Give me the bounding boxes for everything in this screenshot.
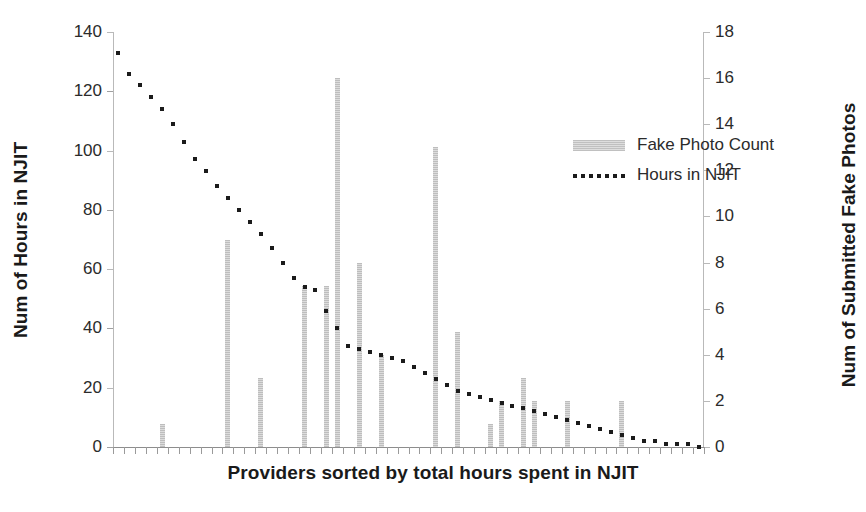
x-tick [266, 447, 267, 454]
y-tick-label-right: 18 [715, 23, 734, 40]
data-point [390, 356, 394, 360]
x-tick [441, 447, 442, 454]
x-tick [365, 447, 366, 454]
y-tick-label-left: 120 [74, 82, 102, 99]
data-point [259, 232, 263, 236]
x-tick [463, 447, 464, 454]
bar [225, 240, 230, 448]
data-point [587, 424, 591, 428]
data-point [149, 95, 153, 99]
data-point [664, 442, 668, 446]
data-point [565, 418, 569, 422]
data-point [313, 288, 317, 292]
x-tick [693, 447, 694, 454]
y-tick-label-right: 8 [715, 254, 724, 271]
y-tick-right [704, 355, 710, 356]
dotted-line-swatch-icon [573, 170, 625, 181]
x-tick [671, 447, 672, 454]
y-tick-left [107, 32, 113, 33]
data-point [401, 359, 405, 363]
data-point [270, 246, 274, 250]
bar [160, 424, 165, 447]
data-point [434, 377, 438, 381]
x-tick [584, 447, 585, 454]
x-tick [518, 447, 519, 454]
data-point [642, 439, 646, 443]
data-point [576, 421, 580, 425]
x-tick [551, 447, 552, 454]
data-point [631, 436, 635, 440]
data-point [543, 412, 547, 416]
y-tick-label-left: 100 [74, 142, 102, 159]
x-tick [409, 447, 410, 454]
data-point [500, 401, 504, 405]
x-tick [660, 447, 661, 454]
x-tick [244, 447, 245, 454]
x-tick [255, 447, 256, 454]
y-tick-right [704, 124, 710, 125]
data-point [653, 439, 657, 443]
y-tick-right [704, 32, 710, 33]
y-axis-left-title: Num of Hours in NJIT [8, 90, 34, 390]
y-tick-left [107, 388, 113, 389]
data-point [204, 169, 208, 173]
y-tick-left [107, 328, 113, 329]
y-tick-label-left: 40 [83, 319, 102, 336]
x-tick [376, 447, 377, 454]
data-point [127, 72, 131, 76]
x-tick [638, 447, 639, 454]
chart-canvas: Num of Hours in NJIT Num of Submitted Fa… [0, 0, 866, 512]
x-tick [157, 447, 158, 454]
legend-item-fake-photo-count: Fake Photo Count [573, 130, 774, 160]
y-tick-right [704, 216, 710, 217]
x-tick [222, 447, 223, 454]
bar [335, 78, 340, 447]
x-tick [179, 447, 180, 454]
data-point [116, 51, 120, 55]
data-point [193, 157, 197, 161]
x-tick [212, 447, 213, 454]
bar [521, 378, 526, 447]
x-tick [321, 447, 322, 454]
data-point [445, 383, 449, 387]
data-point [171, 122, 175, 126]
y-tick-label-left: 0 [93, 438, 102, 455]
y-tick-label-left: 60 [83, 260, 102, 277]
x-tick [595, 447, 596, 454]
x-tick [616, 447, 617, 454]
data-point [379, 353, 383, 357]
data-point [292, 276, 296, 280]
x-tick [529, 447, 530, 454]
bar [488, 424, 493, 447]
y-tick-label-left: 140 [74, 23, 102, 40]
x-tick [430, 447, 431, 454]
x-tick [704, 447, 705, 454]
data-point [357, 347, 361, 351]
data-point [346, 344, 350, 348]
y-tick-left [107, 91, 113, 92]
data-point [675, 442, 679, 446]
data-point [138, 83, 142, 87]
data-point [521, 406, 525, 410]
x-tick [485, 447, 486, 454]
x-tick [135, 447, 136, 454]
x-tick [474, 447, 475, 454]
bar [302, 286, 307, 447]
y-tick-right [704, 309, 710, 310]
x-tick [354, 447, 355, 454]
x-tick [332, 447, 333, 454]
x-tick [496, 447, 497, 454]
x-tick [452, 447, 453, 454]
x-tick [288, 447, 289, 454]
legend-label-hours-in-njit: Hours in NJIT [637, 165, 741, 185]
x-axis-title: Providers sorted by total hours spent in… [0, 462, 866, 484]
x-tick [277, 447, 278, 454]
x-tick [113, 447, 114, 454]
x-tick [190, 447, 191, 454]
x-tick [507, 447, 508, 454]
bar-swatch-icon [573, 140, 625, 151]
legend: Fake Photo Count Hours in NJIT [573, 130, 774, 190]
x-tick [310, 447, 311, 454]
y-tick-right [704, 78, 710, 79]
data-point [237, 208, 241, 212]
